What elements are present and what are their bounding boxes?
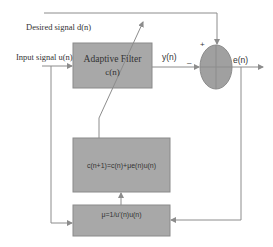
adaptive-filter-diagram: Desired signal d(n) Input signal u(n) Ad… [0, 0, 273, 247]
desired-signal-label: Desired signal d(n) [26, 22, 91, 32]
error-label: e(n) [233, 55, 248, 65]
plus-sign: + [200, 40, 205, 49]
diagram-svg: Desired signal d(n) Input signal u(n) Ad… [0, 0, 273, 247]
step-size-block [73, 205, 170, 236]
step-size-text: μ=1/u'(n)u(n) [101, 211, 141, 219]
input-branch-wire [51, 66, 72, 223]
input-signal-label: Input signal u(n) [16, 52, 73, 62]
output-label: y(n) [162, 52, 177, 62]
adaptive-filter-block [73, 43, 152, 88]
error-feedback-wire [171, 67, 241, 220]
update-rule-text: c(n+1)=c(n)+μe(n)u(n) [87, 162, 156, 170]
adaptive-filter-title: Adaptive Filter [84, 54, 143, 64]
minus-sign: – [187, 58, 192, 67]
adaptive-filter-coef: c(n) [105, 67, 120, 77]
